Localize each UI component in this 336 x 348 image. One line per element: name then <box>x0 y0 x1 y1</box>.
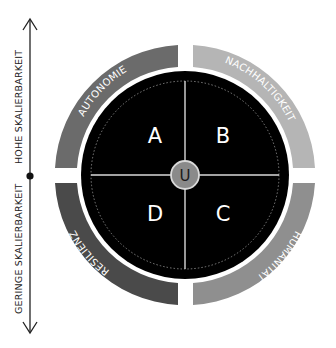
quadrant-b-label: B <box>216 124 230 148</box>
quadrant-c-label: C <box>216 202 231 226</box>
axis-midpoint-dot <box>26 172 33 179</box>
center-label: U <box>180 167 191 185</box>
axis-label-high: HOHE SKALIERBARKEIT <box>13 50 24 164</box>
scalability-axis: HOHE SKALIERBARKEIT GERINGE SKALIERBARKE… <box>13 19 37 333</box>
scalability-diagram: HOHE SKALIERBARKEIT GERINGE SKALIERBARKE… <box>0 0 336 348</box>
quadrant-a-label: A <box>148 124 163 148</box>
axis-label-low: GERINGE SKALIERBARKEIT <box>13 184 24 314</box>
quadrant-d-label: D <box>147 202 163 226</box>
